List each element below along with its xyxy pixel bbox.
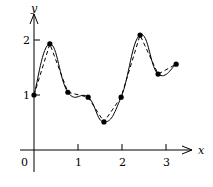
axes: x y 0 [20, 2, 205, 172]
data-point [174, 62, 179, 67]
data-point [65, 90, 70, 95]
dashed-interpolant [34, 35, 176, 122]
y-tick-label: 2 [23, 34, 30, 47]
y-axis-label: y [30, 2, 38, 15]
x-tick-label: 2 [119, 156, 126, 169]
data-point [119, 95, 124, 100]
data-point [47, 41, 52, 46]
x-axis-label: x [198, 144, 205, 157]
x-tick-label: 3 [163, 156, 170, 169]
data-point [86, 95, 91, 100]
origin-label: 0 [21, 156, 28, 169]
chart: x y 0 12312 [0, 0, 213, 187]
y-tick-label: 1 [23, 89, 30, 102]
data-point [31, 92, 36, 97]
data-point [155, 72, 160, 77]
data-point [101, 119, 106, 124]
data-point [137, 32, 142, 37]
ticks: 12312 [23, 34, 170, 169]
x-tick-label: 1 [75, 156, 82, 169]
curves [34, 35, 176, 122]
smooth-curve [34, 35, 176, 122]
